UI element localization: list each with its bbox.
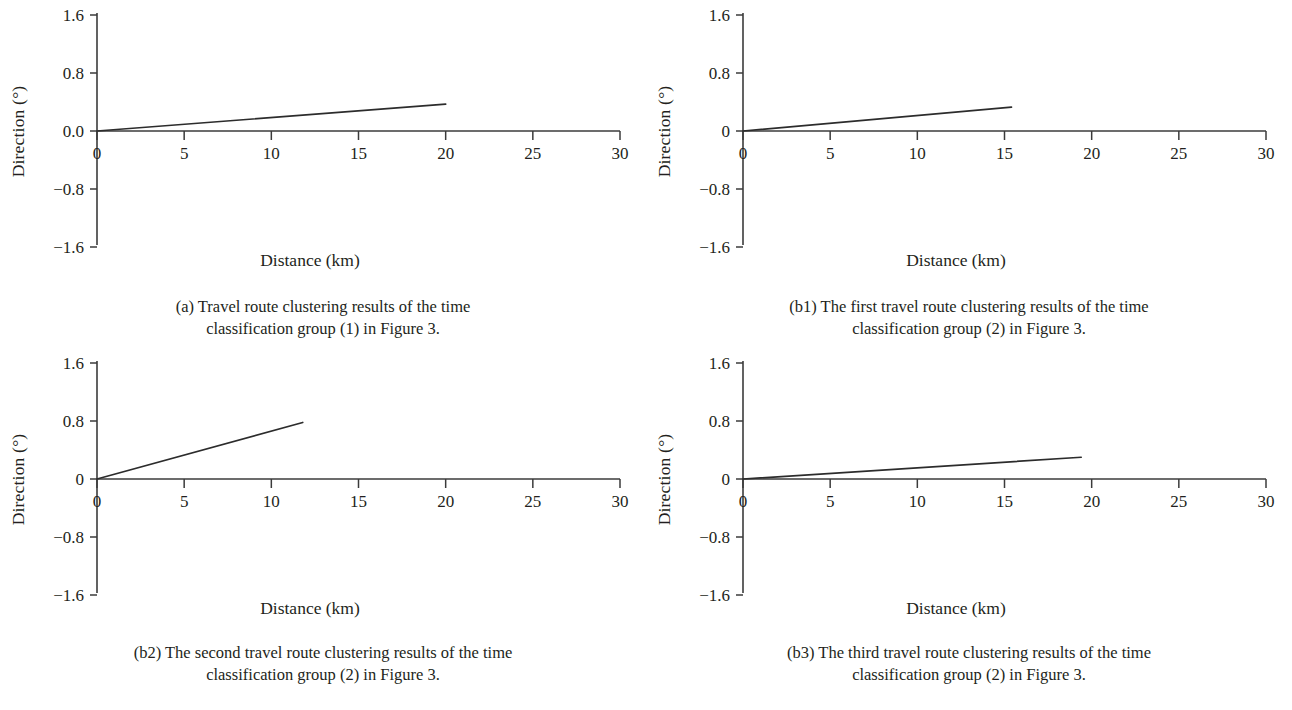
y-tick-label: 1.6 <box>63 354 84 373</box>
x-tick-label: 0 <box>739 492 748 511</box>
chart-a: −1.6−0.80.00.81.6051015202530 <box>0 0 646 285</box>
x-tick-label: 10 <box>909 144 926 163</box>
x-tick-label: 0 <box>93 492 102 511</box>
plot-area-b2: −1.6−0.800.81.6051015202530 Direction (°… <box>0 348 646 633</box>
data-line-a <box>97 104 446 131</box>
y-tick-label: −0.8 <box>53 528 84 547</box>
x-tick-label: 30 <box>612 492 629 511</box>
y-tick-label: 0.8 <box>709 412 730 431</box>
x-axis-label-b3: Distance (km) <box>836 598 1076 619</box>
x-tick-label: 5 <box>180 144 189 163</box>
figure-panel-grid: −1.6−0.80.00.81.6051015202530 Direction … <box>0 0 1292 710</box>
x-tick-label: 10 <box>263 492 280 511</box>
chart-b1: −1.6−0.800.81.6051015202530 <box>646 0 1292 285</box>
x-tick-label: 15 <box>996 144 1013 163</box>
x-tick-label: 10 <box>909 492 926 511</box>
y-tick-label: 0 <box>722 470 731 489</box>
caption-b3-line1: (b3) The third travel route clustering r… <box>686 642 1252 664</box>
y-tick-label: −0.8 <box>699 180 730 199</box>
x-tick-label: 15 <box>350 144 367 163</box>
x-tick-label: 20 <box>1083 492 1100 511</box>
data-line-b1 <box>743 107 1011 131</box>
y-tick-label: 0 <box>76 470 85 489</box>
y-tick-label: 1.6 <box>63 6 84 25</box>
y-tick-label: −1.6 <box>53 238 84 257</box>
y-tick-label: 0.0 <box>63 122 84 141</box>
panel-b2: −1.6−0.800.81.6051015202530 Direction (°… <box>0 348 646 710</box>
y-tick-label: −0.8 <box>699 528 730 547</box>
x-tick-label: 15 <box>996 492 1013 511</box>
caption-b1-line2: classification group (2) in Figure 3. <box>686 318 1252 340</box>
x-tick-label: 30 <box>1258 144 1275 163</box>
x-tick-label: 25 <box>524 144 541 163</box>
data-line-b3 <box>743 457 1081 479</box>
caption-a-line1: (a) Travel route clustering results of t… <box>40 296 606 318</box>
x-tick-label: 5 <box>180 492 189 511</box>
chart-b2: −1.6−0.800.81.6051015202530 <box>0 348 646 633</box>
y-tick-label: 0.8 <box>63 412 84 431</box>
x-tick-label: 20 <box>437 492 454 511</box>
caption-b1: (b1) The first travel route clustering r… <box>646 296 1292 341</box>
plot-area-a: −1.6−0.80.00.81.6051015202530 Direction … <box>0 0 646 285</box>
x-tick-label: 30 <box>1258 492 1275 511</box>
x-tick-label: 10 <box>263 144 280 163</box>
y-tick-label: 0.8 <box>709 64 730 83</box>
caption-b1-line1: (b1) The first travel route clustering r… <box>686 296 1252 318</box>
chart-b3: −1.6−0.800.81.6051015202530 <box>646 348 1292 633</box>
panel-a: −1.6−0.80.00.81.6051015202530 Direction … <box>0 0 646 348</box>
y-tick-label: 1.6 <box>709 354 730 373</box>
y-tick-label: 0 <box>722 122 731 141</box>
plot-area-b1: −1.6−0.800.81.6051015202530 Direction (°… <box>646 0 1292 285</box>
y-tick-label: −0.8 <box>53 180 84 199</box>
x-axis-label-b1: Distance (km) <box>836 250 1076 271</box>
caption-b2: (b2) The second travel route clustering … <box>0 642 646 687</box>
y-tick-label: −1.6 <box>699 586 730 605</box>
x-tick-label: 0 <box>93 144 102 163</box>
y-tick-label: −1.6 <box>53 586 84 605</box>
x-axis-label-a: Distance (km) <box>190 250 430 271</box>
caption-b2-line1: (b2) The second travel route clustering … <box>40 642 606 664</box>
plot-area-b3: −1.6−0.800.81.6051015202530 Direction (°… <box>646 348 1292 633</box>
y-tick-label: −1.6 <box>699 238 730 257</box>
data-line-b2 <box>97 422 303 479</box>
x-axis-label-b2: Distance (km) <box>190 598 430 619</box>
x-tick-label: 25 <box>524 492 541 511</box>
y-tick-label: 0.8 <box>63 64 84 83</box>
x-tick-label: 20 <box>1083 144 1100 163</box>
caption-a-line2: classification group (1) in Figure 3. <box>40 318 606 340</box>
caption-b3-line2: classification group (2) in Figure 3. <box>686 664 1252 686</box>
caption-a: (a) Travel route clustering results of t… <box>0 296 646 341</box>
x-tick-label: 30 <box>612 144 629 163</box>
caption-b2-line2: classification group (2) in Figure 3. <box>40 664 606 686</box>
x-tick-label: 20 <box>437 144 454 163</box>
panel-b3: −1.6−0.800.81.6051015202530 Direction (°… <box>646 348 1292 710</box>
y-tick-label: 1.6 <box>709 6 730 25</box>
x-tick-label: 5 <box>826 492 835 511</box>
x-tick-label: 15 <box>350 492 367 511</box>
x-tick-label: 25 <box>1170 144 1187 163</box>
caption-b3: (b3) The third travel route clustering r… <box>646 642 1292 687</box>
panel-b1: −1.6−0.800.81.6051015202530 Direction (°… <box>646 0 1292 348</box>
x-tick-label: 0 <box>739 144 748 163</box>
x-tick-label: 5 <box>826 144 835 163</box>
x-tick-label: 25 <box>1170 492 1187 511</box>
